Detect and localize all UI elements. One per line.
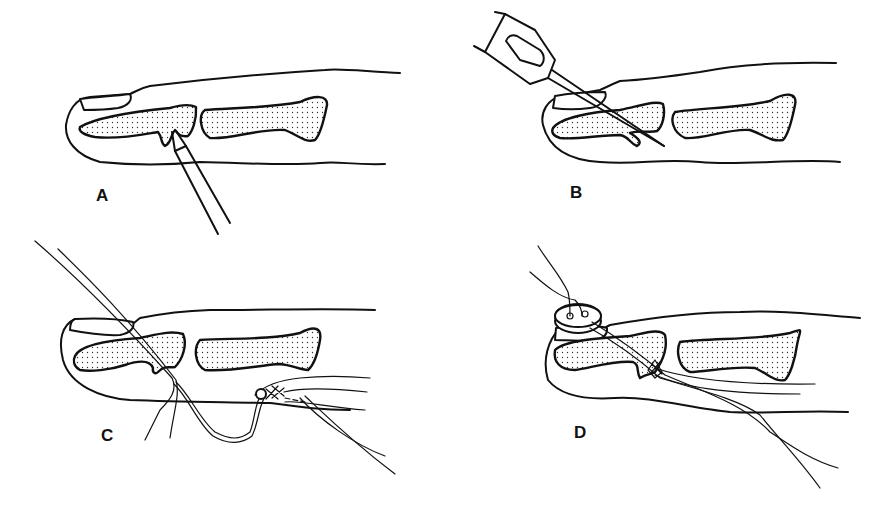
panel-b (474, 12, 840, 163)
panel-d (530, 246, 860, 488)
middle-phalanx-b (672, 95, 795, 141)
middle-phalanx-d (678, 330, 800, 380)
panel-c (35, 241, 395, 474)
distal-phalanx-c (74, 333, 185, 374)
panel-a (66, 69, 400, 234)
finger-procedure-illustration (0, 0, 890, 508)
tendon-stitch-knot-icon (256, 389, 266, 399)
panel-label-c: C (101, 426, 113, 446)
panel-label-b: B (570, 183, 582, 203)
panel-label-d: D (574, 423, 586, 443)
tendon-c (255, 377, 370, 411)
middle-phalanx-a (201, 97, 327, 141)
panel-label-a: A (96, 186, 108, 206)
middle-phalanx-c (196, 329, 320, 371)
distal-phalanx-a (80, 105, 196, 146)
probe-instrument-icon (172, 131, 230, 234)
